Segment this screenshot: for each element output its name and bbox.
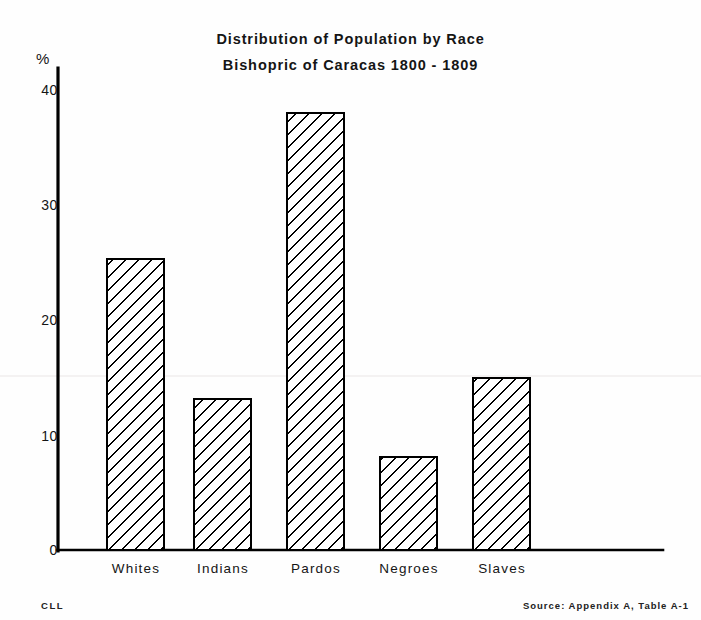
footer-source: Source: Appendix A, Table A-1	[523, 600, 689, 611]
bar-pardos[interactable]	[286, 112, 345, 551]
y-tick-label-40: 40	[18, 82, 58, 98]
x-tick-label-whites: Whites	[86, 561, 186, 576]
y-tick-label-20: 20	[18, 312, 58, 328]
footer-initials: CLL	[41, 600, 64, 611]
y-tick-label-0: 0	[18, 542, 58, 558]
y-tick-label-30: 30	[18, 197, 58, 213]
x-tick-label-negroes: Negroes	[359, 561, 459, 576]
figure-page: Distribution of Population by Race Bisho…	[0, 0, 701, 620]
bar-slaves[interactable]	[472, 377, 531, 551]
bar-chart: % 40 30 20 10 0 Whites Indians Pardos Ne…	[0, 0, 701, 620]
x-tick-label-indians: Indians	[173, 561, 273, 576]
bar-whites[interactable]	[106, 258, 165, 551]
bar-negroes[interactable]	[379, 456, 438, 551]
bar-indians[interactable]	[193, 398, 252, 551]
x-tick-label-slaves: Slaves	[452, 561, 552, 576]
x-tick-label-pardos: Pardos	[266, 561, 366, 576]
y-tick-label-10: 10	[18, 428, 58, 444]
